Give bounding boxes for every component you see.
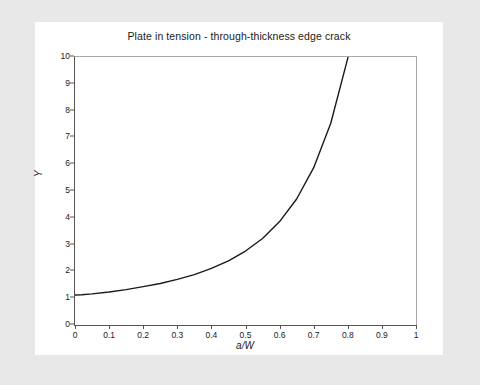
figure-page: Plate in tension - through-thickness edg… (0, 0, 480, 385)
x-tick-mark (143, 325, 144, 329)
x-tick-mark (280, 325, 281, 329)
y-tick-label: 7 (44, 132, 70, 141)
y-tick-label: 5 (44, 186, 70, 195)
y-tick-label: 6 (44, 159, 70, 168)
y-tick-label: 4 (44, 213, 70, 222)
y-tick-label: 8 (44, 105, 70, 114)
data-series-line (75, 57, 365, 295)
chart-title: Plate in tension - through-thickness edg… (35, 30, 443, 42)
x-tick-mark (211, 325, 212, 329)
x-tick-mark (382, 325, 383, 329)
x-tick-mark (246, 325, 247, 329)
figure-card: Plate in tension - through-thickness edg… (35, 22, 443, 355)
y-tick-label: 10 (44, 52, 70, 61)
x-tick-mark (109, 325, 110, 329)
x-tick-mark (177, 325, 178, 329)
y-tick-label: 3 (44, 239, 70, 248)
x-tick-mark (416, 325, 417, 329)
x-tick-mark (348, 325, 349, 329)
y-tick-label: 1 (44, 293, 70, 302)
x-tick-mark (75, 325, 76, 329)
x-tick-label: 1 (396, 331, 436, 340)
x-axis-title: a/W (74, 340, 416, 351)
plot-area (74, 56, 417, 326)
plot-svg (75, 57, 416, 325)
y-axis-tick-labels: 012345678910 (40, 56, 70, 324)
x-tick-mark (314, 325, 315, 329)
y-tick-label: 2 (44, 266, 70, 275)
y-tick-label: 9 (44, 79, 70, 88)
y-tick-label: 0 (44, 320, 70, 329)
